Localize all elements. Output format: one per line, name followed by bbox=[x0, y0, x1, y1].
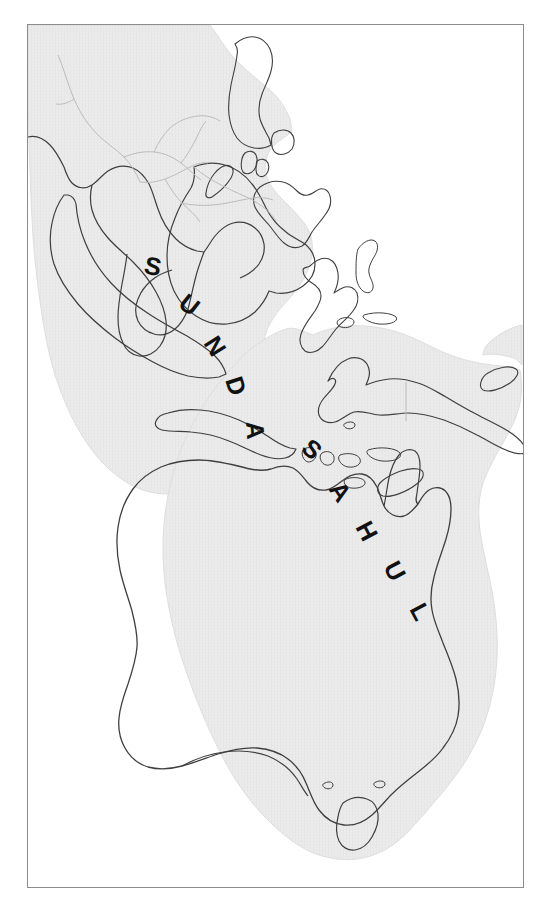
map-canvas: S U N D A S A H U L bbox=[28, 25, 523, 887]
map-frame-border: S U N D A S A H U L bbox=[27, 24, 524, 888]
label-sunda-letter-a: A bbox=[241, 420, 270, 440]
map-figure: S U N D A S A H U L bbox=[0, 0, 549, 908]
